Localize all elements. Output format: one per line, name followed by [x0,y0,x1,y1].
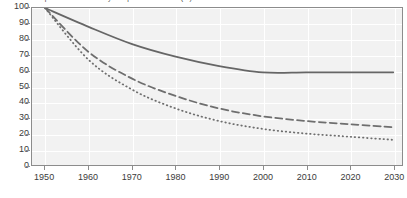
x-axis-tick [394,166,395,170]
x-axis-tick-label: 2020 [330,172,370,182]
x-axis-tick [219,166,220,170]
x-axis-tick [263,166,264,170]
x-axis-tick-label: 1970 [112,172,152,182]
x-axis-tick [88,166,89,170]
x-axis-tick-label: 2000 [243,172,283,182]
chart-container: Per capita water availability compared w… [0,0,407,198]
x-axis-tick-label: 1980 [155,172,195,182]
x-axis-tick-label: 2010 [287,172,327,182]
x-axis-tick-label: 2030 [374,172,407,182]
x-axis-tick-label: 1960 [68,172,108,182]
x-axis-tick [44,166,45,170]
x-axis-tick-label: 1990 [199,172,239,182]
x-axis: 195019601970198019902000201020202030 [0,0,407,198]
x-axis-tick [350,166,351,170]
x-axis-tick [307,166,308,170]
x-axis-tick [132,166,133,170]
x-axis-tick [175,166,176,170]
x-axis-tick-label: 1950 [24,172,64,182]
